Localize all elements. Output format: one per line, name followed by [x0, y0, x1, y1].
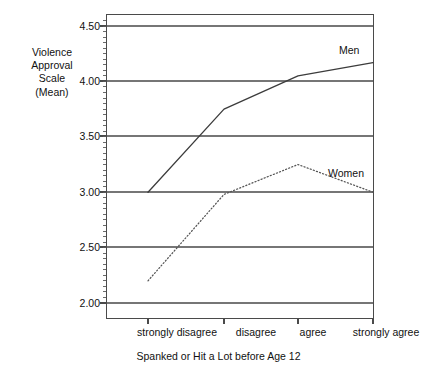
x-tick-label-disagree: disagree: [236, 326, 276, 338]
x-major-ticks: [148, 318, 373, 324]
y-tick-label-350: 3.50: [60, 131, 100, 142]
y-tick-label-300: 3.00: [60, 187, 100, 198]
y-tick-label-250: 2.50: [60, 242, 100, 253]
x-tick-label-strongly-agree: strongly agree: [353, 326, 420, 338]
x-tick-label-strongly-disagree: strongly disagree: [137, 326, 217, 338]
series-label-men: Men: [339, 44, 359, 56]
x-axis-tick-labels: strongly disagree disagree agree strongl…: [0, 326, 437, 342]
gridlines: [106, 26, 373, 303]
y-tick-label-450: 4.50: [60, 21, 100, 32]
chart-figure: Violence Approval Scale (Mean) 4.50 4.00…: [0, 0, 437, 372]
series-line-women: [148, 165, 373, 281]
axis-frame: [106, 14, 373, 318]
x-tick-label-agree: agree: [300, 326, 327, 338]
series-label-women: Women: [328, 167, 364, 179]
y-axis-tick-labels: 4.50 4.00 3.50 3.00 2.50 2.00: [58, 0, 100, 372]
y-tick-label-200: 2.00: [60, 298, 100, 309]
y-tick-label-400: 4.00: [60, 76, 100, 87]
x-axis-title: Spanked or Hit a Lot before Age 12: [0, 350, 437, 362]
